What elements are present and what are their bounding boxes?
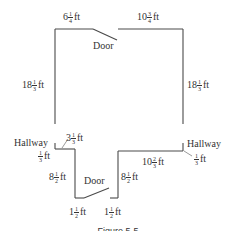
label-door-top: Door <box>93 41 114 51</box>
label-hallway-right-offset: 13ft <box>194 153 206 166</box>
label-top-left: 614ft <box>63 11 80 24</box>
label-door-bottom: Door <box>84 176 105 186</box>
label-left-wall: 1813ft <box>22 79 44 92</box>
floor-plan-walls <box>0 0 236 231</box>
label-bottom-left: 112ft <box>69 206 86 219</box>
right-offset-leader <box>184 151 192 156</box>
label-hallway-right: Hallway <box>187 139 221 149</box>
label-alcove-right: 812ft <box>121 171 138 184</box>
floor-plan-figure: 614ft 1034ft Door 1813ft 1813ft Hallway … <box>0 0 236 231</box>
label-alcove-left: 812ft <box>49 171 66 184</box>
label-top-right: 1034ft <box>137 11 159 24</box>
label-bottom-right: 112ft <box>104 206 121 219</box>
label-hallway-left: Hallway <box>14 138 48 148</box>
top-door <box>93 29 117 40</box>
label-right-wall: 1813ft <box>187 79 209 92</box>
label-bottom-right-segment: 1023ft <box>142 156 164 169</box>
label-hallway-left-segment: 313ft <box>66 132 83 145</box>
bottom-door <box>84 188 109 198</box>
figure-caption: Figure 5-5 <box>0 226 236 231</box>
label-hallway-left-offset: 13ft <box>38 150 50 163</box>
